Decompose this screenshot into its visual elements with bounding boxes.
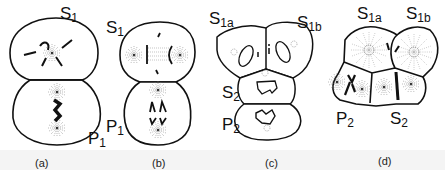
label-d-s1b: S1b	[406, 5, 431, 24]
label-d-p2: P2	[336, 110, 354, 129]
label-c-p2: P2	[222, 116, 240, 135]
label-c-s1a: S1a	[209, 10, 234, 29]
label-c-s1b: S1b	[297, 14, 322, 33]
label-a-s1: S1	[60, 5, 78, 24]
caption-c: (c)	[265, 157, 278, 169]
caption-a: (a)	[35, 157, 48, 169]
panel-d-drawing	[333, 27, 438, 106]
panel-a-drawing	[10, 18, 100, 145]
label-b-s1: S1	[106, 19, 124, 38]
label-b-p1: P1	[106, 118, 124, 137]
caption-d: (d)	[378, 155, 391, 167]
label-a-p1: P1	[88, 130, 106, 149]
cell-division-figure: S1 P1 (a) S1 P1 (b) S1a S1b S2 P2 (c) S1…	[0, 0, 445, 170]
label-c-s2: S2	[222, 84, 240, 103]
label-d-s1a: S1a	[357, 5, 382, 24]
panel-b-drawing	[120, 22, 195, 145]
label-d-s2: S2	[390, 110, 408, 129]
caption-b: (b)	[152, 157, 165, 169]
